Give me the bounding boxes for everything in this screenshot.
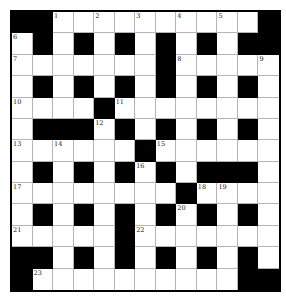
answer-cell[interactable] [94,183,115,204]
answer-cell[interactable] [217,33,238,54]
answer-cell[interactable]: 7 [12,55,33,76]
answer-cell[interactable]: 19 [217,183,238,204]
answer-cell[interactable] [53,55,74,76]
answer-cell[interactable] [156,269,177,290]
answer-cell[interactable]: 17 [12,183,33,204]
answer-cell[interactable] [176,98,197,119]
answer-cell[interactable] [176,33,197,54]
answer-cell[interactable]: 2 [94,12,115,33]
answer-cell[interactable]: 11 [115,98,136,119]
answer-cell[interactable] [176,269,197,290]
answer-cell[interactable] [33,183,54,204]
answer-cell[interactable] [217,98,238,119]
answer-cell[interactable] [94,33,115,54]
answer-cell[interactable] [94,55,115,76]
answer-cell[interactable] [115,140,136,161]
answer-cell[interactable] [217,140,238,161]
answer-cell[interactable] [238,183,259,204]
answer-cell[interactable] [94,226,115,247]
answer-cell[interactable] [115,12,136,33]
answer-cell[interactable] [135,98,156,119]
answer-cell[interactable] [217,226,238,247]
answer-cell[interactable] [217,76,238,97]
answer-cell[interactable] [53,162,74,183]
answer-cell[interactable] [115,269,136,290]
answer-cell[interactable] [33,98,54,119]
answer-cell[interactable] [74,183,95,204]
answer-cell[interactable] [238,98,259,119]
answer-cell[interactable] [258,204,279,225]
answer-cell[interactable] [12,76,33,97]
answer-cell[interactable]: 4 [176,12,197,33]
answer-cell[interactable] [12,162,33,183]
answer-cell[interactable] [94,162,115,183]
answer-cell[interactable] [197,269,218,290]
answer-cell[interactable]: 21 [12,226,33,247]
answer-cell[interactable] [33,140,54,161]
answer-cell[interactable] [135,269,156,290]
answer-cell[interactable] [258,140,279,161]
answer-cell[interactable] [94,269,115,290]
answer-cell[interactable] [217,247,238,268]
answer-cell[interactable] [74,55,95,76]
answer-cell[interactable] [176,119,197,140]
answer-cell[interactable] [258,119,279,140]
answer-cell[interactable] [53,226,74,247]
answer-cell[interactable] [53,247,74,268]
answer-cell[interactable] [156,226,177,247]
answer-cell[interactable]: 15 [156,140,177,161]
answer-cell[interactable] [217,119,238,140]
answer-cell[interactable] [217,204,238,225]
answer-cell[interactable] [197,140,218,161]
answer-cell[interactable] [74,140,95,161]
answer-cell[interactable] [115,55,136,76]
answer-cell[interactable] [12,119,33,140]
answer-cell[interactable]: 12 [94,119,115,140]
answer-cell[interactable] [33,226,54,247]
answer-cell[interactable] [258,76,279,97]
answer-cell[interactable] [33,55,54,76]
answer-cell[interactable] [217,55,238,76]
answer-cell[interactable] [258,247,279,268]
answer-cell[interactable]: 6 [12,33,33,54]
answer-cell[interactable] [53,76,74,97]
answer-cell[interactable] [238,55,259,76]
answer-cell[interactable]: 16 [135,162,156,183]
answer-cell[interactable] [156,98,177,119]
answer-cell[interactable] [135,76,156,97]
answer-cell[interactable]: 22 [135,226,156,247]
answer-cell[interactable] [258,183,279,204]
answer-cell[interactable]: 10 [12,98,33,119]
answer-cell[interactable] [238,226,259,247]
answer-cell[interactable] [197,55,218,76]
answer-cell[interactable]: 18 [197,183,218,204]
answer-cell[interactable] [135,247,156,268]
answer-cell[interactable] [53,269,74,290]
answer-cell[interactable] [12,204,33,225]
answer-cell[interactable] [94,247,115,268]
answer-cell[interactable] [53,98,74,119]
answer-cell[interactable] [258,98,279,119]
answer-cell[interactable] [135,119,156,140]
answer-cell[interactable]: 14 [53,140,74,161]
answer-cell[interactable] [156,12,177,33]
answer-cell[interactable] [176,162,197,183]
answer-cell[interactable] [74,269,95,290]
answer-cell[interactable] [94,76,115,97]
answer-cell[interactable] [74,226,95,247]
answer-cell[interactable] [258,162,279,183]
answer-cell[interactable]: 3 [135,12,156,33]
answer-cell[interactable] [176,76,197,97]
answer-cell[interactable] [74,98,95,119]
answer-cell[interactable] [258,226,279,247]
answer-cell[interactable] [135,55,156,76]
answer-cell[interactable] [74,12,95,33]
answer-cell[interactable] [176,247,197,268]
answer-cell[interactable] [197,98,218,119]
answer-cell[interactable] [197,12,218,33]
answer-cell[interactable]: 5 [217,12,238,33]
answer-cell[interactable] [94,204,115,225]
answer-cell[interactable]: 23 [33,269,54,290]
answer-cell[interactable] [135,183,156,204]
answer-cell[interactable]: 1 [53,12,74,33]
